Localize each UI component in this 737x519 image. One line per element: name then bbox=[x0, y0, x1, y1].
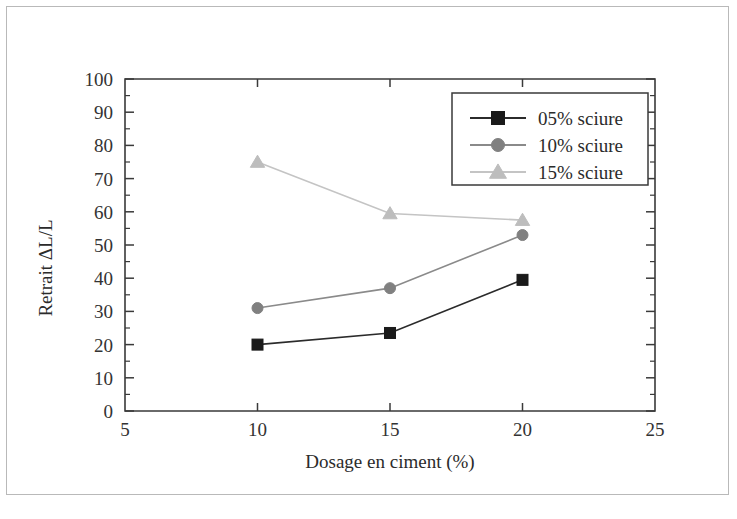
legend-entry-label: 10% sciure bbox=[538, 135, 623, 156]
data-point-marker bbox=[517, 230, 528, 241]
y-tick-label: 100 bbox=[85, 69, 114, 90]
y-tick-label: 80 bbox=[94, 135, 113, 156]
x-tick-label: 15 bbox=[381, 419, 400, 440]
chart-figure: 0102030405060708090100 510152025 05% sci… bbox=[0, 0, 737, 519]
line-chart: 0102030405060708090100 510152025 05% sci… bbox=[0, 0, 737, 519]
figure-page: 0102030405060708090100 510152025 05% sci… bbox=[0, 0, 737, 519]
data-point-marker bbox=[250, 155, 264, 167]
legend-entry-label: 05% sciure bbox=[538, 108, 623, 129]
data-point-marker bbox=[383, 207, 397, 219]
x-axis-title: Dosage en ciment (%) bbox=[305, 451, 474, 473]
legend-marker bbox=[492, 139, 505, 152]
data-point-marker bbox=[385, 327, 396, 338]
legend-marker bbox=[492, 112, 505, 125]
y-tick-label: 40 bbox=[94, 268, 113, 289]
data-series bbox=[252, 230, 528, 314]
series-line bbox=[258, 235, 523, 308]
y-tick-label: 60 bbox=[94, 202, 113, 223]
chart-legend: 05% sciure10% sciure15% sciure bbox=[452, 93, 648, 185]
y-tick-label: 10 bbox=[94, 368, 113, 389]
y-tick-label: 90 bbox=[94, 102, 113, 123]
y-axis-title: Retrait ΔL/L bbox=[35, 219, 56, 316]
y-tick-label: 50 bbox=[94, 235, 113, 256]
data-point-marker bbox=[252, 339, 263, 350]
data-point-marker bbox=[252, 303, 263, 314]
y-tick-label: 0 bbox=[104, 401, 114, 422]
x-tick-label: 5 bbox=[120, 419, 130, 440]
x-tick-label: 20 bbox=[513, 419, 532, 440]
x-tick-label: 25 bbox=[646, 419, 665, 440]
x-tick-label: 10 bbox=[248, 419, 267, 440]
y-tick-label: 70 bbox=[94, 169, 113, 190]
legend-entry-label: 15% sciure bbox=[538, 162, 623, 183]
data-point-marker bbox=[385, 283, 396, 294]
y-tick-label: 30 bbox=[94, 301, 113, 322]
data-point-marker bbox=[517, 274, 528, 285]
y-tick-label: 20 bbox=[94, 335, 113, 356]
